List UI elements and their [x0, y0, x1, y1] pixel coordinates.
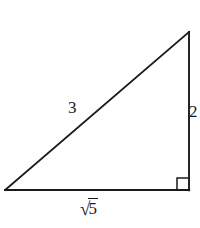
triangle-drawing [0, 0, 200, 228]
radicand-value: 5 [88, 198, 98, 219]
vertical-leg-length-label: 2 [189, 103, 198, 120]
right-angle-marker-icon [177, 178, 189, 190]
right-triangle-figure: 3 2 √5 [0, 0, 200, 228]
base-length-label: √5 [80, 198, 98, 219]
square-root-expression: √5 [80, 198, 98, 219]
triangle-hypotenuse-line [5, 32, 189, 190]
hypotenuse-length-label: 3 [68, 99, 77, 116]
